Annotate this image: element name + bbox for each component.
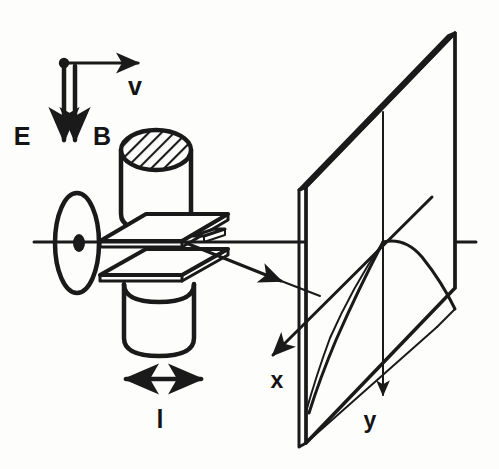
detector-screen xyxy=(299,33,455,447)
lower-pole-piece xyxy=(124,284,194,356)
electric-field-label: E xyxy=(14,122,31,150)
diagram-canvas: E B v l x y xyxy=(0,0,499,469)
aperture-hole xyxy=(73,234,85,252)
lower-deflection-plate xyxy=(100,249,228,281)
screen-front-face xyxy=(306,33,455,443)
x-axis-label: x xyxy=(271,367,284,393)
plate-length-label: l xyxy=(157,405,164,433)
velocity-label: v xyxy=(128,72,142,100)
magnetic-field-label: B xyxy=(93,122,111,150)
physics-diagram-figure: E B v l x y xyxy=(0,0,499,469)
pole-face-hatched xyxy=(121,130,191,170)
y-axis-label: y xyxy=(364,407,377,433)
